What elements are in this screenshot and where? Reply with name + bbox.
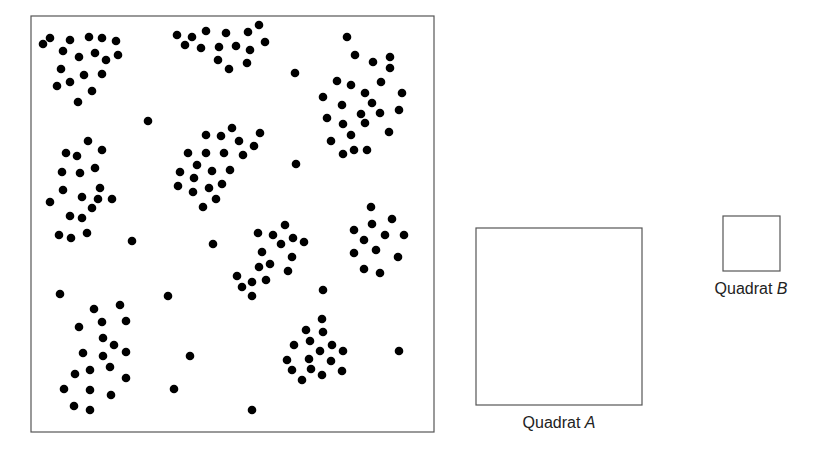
cluster-9-dot bbox=[318, 371, 327, 380]
cluster-6-dot bbox=[277, 240, 286, 249]
cluster-4-dot bbox=[73, 152, 82, 161]
cluster-4-dot bbox=[76, 169, 85, 178]
cluster-4-dot bbox=[88, 204, 97, 213]
cluster-1-dot bbox=[102, 56, 111, 65]
isolated-dot bbox=[248, 406, 257, 415]
cluster-6-dot bbox=[288, 253, 297, 262]
quadrat-sampling-diagram bbox=[0, 0, 829, 453]
cluster-3-dot bbox=[395, 106, 404, 115]
cluster-3-dot bbox=[339, 120, 348, 129]
cluster-3-dot bbox=[398, 89, 407, 98]
cluster-5-dot bbox=[205, 184, 214, 193]
cluster-3-dot bbox=[377, 78, 386, 87]
cluster-5-dot bbox=[190, 174, 199, 183]
cluster-2-dot bbox=[255, 21, 264, 30]
cluster-2-dot bbox=[243, 59, 252, 68]
cluster-8-dot bbox=[86, 366, 95, 375]
quadrat-b-label-letter: B bbox=[777, 280, 788, 297]
cluster-9-dot bbox=[319, 328, 328, 337]
cluster-4-dot bbox=[84, 137, 93, 146]
cluster-6-dot bbox=[248, 292, 257, 301]
cluster-4-dot bbox=[66, 212, 75, 221]
cluster-6-dot bbox=[233, 272, 242, 281]
cluster-1-dot bbox=[80, 71, 89, 80]
cluster-6-dot bbox=[281, 221, 290, 230]
cluster-6-dot bbox=[266, 260, 275, 269]
cluster-5-dot bbox=[202, 149, 211, 158]
cluster-3-dot bbox=[339, 150, 348, 159]
isolated-dot bbox=[343, 33, 352, 42]
cluster-3-dot bbox=[350, 146, 359, 155]
quadrat-b-label: Quadrat B bbox=[715, 280, 788, 298]
quadrat-a-label-prefix: Quadrat bbox=[523, 414, 585, 431]
cluster-5-dot bbox=[184, 149, 193, 158]
cluster-8-dot bbox=[116, 301, 125, 310]
cluster-5-dot bbox=[208, 167, 217, 176]
cluster-8-dot bbox=[90, 305, 99, 314]
cluster-3-dot bbox=[357, 110, 366, 119]
cluster-1-dot bbox=[66, 36, 75, 45]
cluster-3-dot bbox=[386, 53, 395, 62]
cluster-1-dot bbox=[112, 37, 121, 46]
cluster-2-dot bbox=[202, 27, 211, 36]
cluster-9-dot bbox=[306, 337, 315, 346]
cluster-6-dot bbox=[238, 283, 247, 292]
cluster-3-dot bbox=[361, 89, 370, 98]
cluster-2-dot bbox=[232, 42, 241, 51]
isolated-dot bbox=[209, 240, 218, 249]
quadrat-b-label-prefix: Quadrat bbox=[715, 280, 777, 297]
cluster-8-dot bbox=[70, 402, 79, 411]
cluster-1-dot bbox=[98, 70, 107, 79]
cluster-3-dot bbox=[363, 146, 372, 155]
cluster-6-dot bbox=[269, 231, 278, 240]
cluster-2-dot bbox=[188, 33, 197, 42]
cluster-9-dot bbox=[316, 347, 325, 356]
cluster-3-dot bbox=[369, 58, 378, 67]
cluster-3-dot bbox=[347, 81, 356, 90]
cluster-9-dot bbox=[305, 355, 314, 364]
cluster-9-dot bbox=[290, 341, 299, 350]
cluster-8-dot bbox=[99, 352, 108, 361]
isolated-dot bbox=[292, 160, 301, 169]
cluster-9-dot bbox=[339, 347, 348, 356]
cluster-2-dot bbox=[225, 65, 234, 74]
cluster-8-dot bbox=[86, 406, 95, 415]
cluster-2-dot bbox=[261, 38, 270, 47]
cluster-9-dot bbox=[302, 326, 311, 335]
cluster-2-dot bbox=[181, 41, 190, 50]
cluster-3-dot bbox=[385, 128, 394, 137]
cluster-5-dot bbox=[189, 188, 198, 197]
isolated-dot bbox=[170, 385, 179, 394]
cluster-9-dot bbox=[327, 357, 336, 366]
cluster-4-dot bbox=[67, 234, 76, 243]
cluster-8-dot bbox=[75, 323, 84, 332]
cluster-7-dot bbox=[360, 265, 369, 274]
cluster-5-dot bbox=[256, 129, 265, 138]
cluster-3-dot bbox=[319, 93, 328, 102]
cluster-9-dot bbox=[283, 356, 292, 365]
cluster-4-dot bbox=[59, 186, 68, 195]
cluster-8-dot bbox=[122, 317, 131, 326]
cluster-7-dot bbox=[400, 231, 409, 240]
cluster-1-dot bbox=[59, 47, 68, 56]
cluster-1-dot bbox=[85, 33, 94, 42]
cluster-1-dot bbox=[57, 65, 66, 74]
cluster-6-dot bbox=[254, 229, 263, 238]
cluster-7-dot bbox=[368, 220, 377, 229]
cluster-2-dot bbox=[173, 31, 182, 40]
cluster-3-dot bbox=[386, 64, 395, 73]
cluster-5-dot bbox=[193, 161, 202, 170]
cluster-3-dot bbox=[368, 99, 377, 108]
isolated-dot bbox=[128, 237, 137, 246]
cluster-1-dot bbox=[46, 34, 55, 43]
cluster-2-dot bbox=[214, 56, 223, 65]
isolated-dot bbox=[164, 292, 173, 301]
cluster-4-dot bbox=[58, 168, 67, 177]
cluster-4-dot bbox=[108, 195, 117, 204]
cluster-8-dot bbox=[99, 334, 108, 343]
cluster-6-dot bbox=[248, 278, 257, 287]
cluster-2-dot bbox=[222, 29, 231, 38]
cluster-7-dot bbox=[394, 253, 403, 262]
isolated-dot bbox=[319, 286, 328, 295]
cluster-5-dot bbox=[226, 166, 235, 175]
